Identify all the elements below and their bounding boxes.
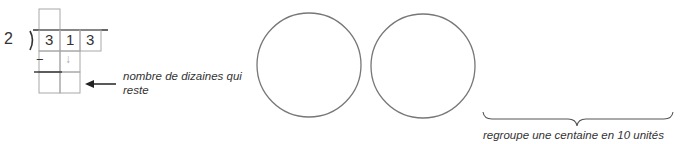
division-bracket: [30, 31, 33, 50]
circle-2: [371, 14, 475, 118]
regroup-label: regroupe une centaine en 10 unités: [483, 128, 678, 142]
minus-sign: −: [36, 53, 44, 67]
circle-1: [257, 13, 361, 117]
dividend-digit-tens: 1: [66, 33, 74, 47]
divisor: 2: [4, 32, 13, 46]
arrow-left-icon: [85, 80, 94, 88]
bring-down-arrow-icon: ↓: [65, 52, 71, 66]
dividend-digit-units: 3: [86, 33, 94, 47]
dividend-digit-hundreds: 3: [45, 33, 53, 47]
curly-brace: [483, 112, 673, 126]
remainder-box-1: [39, 72, 60, 93]
remaining-tens-label: nombre de dizaines qui reste: [123, 69, 263, 97]
division-diagram: [0, 0, 682, 144]
remainder-box-2: [60, 72, 80, 93]
top-box: [39, 9, 60, 30]
